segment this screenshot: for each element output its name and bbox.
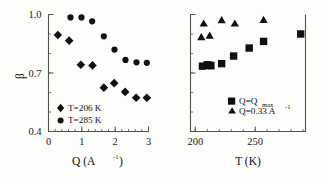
data-point-circle [122,57,128,63]
x-tick-label: 250 [247,136,263,147]
data-point-diamond [121,88,130,97]
y-tick-label: 0.7 [28,68,41,79]
right-panel-data-points [197,16,304,70]
data-point-square [297,30,304,37]
data-point-square [260,38,267,45]
left-panel-axes [49,15,149,132]
left-panel-legend: T=206 K T=285 K [57,103,102,125]
right-panel-tick-labels: 200250 [187,136,263,147]
data-point-square [245,44,252,51]
data-point-diamond [143,93,152,102]
x-tick-label: 1 [79,136,84,147]
legend-marker-diamond [57,104,64,112]
legend-marker-triangle [228,107,236,113]
data-point-square [218,60,225,67]
data-point-circle [78,14,84,20]
left-panel-xlabel-base: Q (A [72,155,96,168]
left-panel-xlabel: Q (A -1 ) [72,153,123,168]
left-panel-data-points [54,14,152,102]
data-point-triangle [200,19,208,26]
legend-label-q033-base: Q=0.33 A [239,106,276,116]
figure-container: 01230.40.71.0 β Q (A -1 ) T=206 K T=285 … [0,0,322,182]
x-tick-label: 3 [146,136,151,147]
data-point-diamond [77,61,86,70]
data-point-diamond [88,61,97,70]
data-point-triangle [197,33,205,40]
left-panel-tick-labels: 01230.40.71.0 [28,9,151,146]
x-tick-label: 0 [46,136,51,147]
data-point-triangle [218,16,226,23]
x-tick-label: 2 [113,136,118,147]
left-panel-ylabel: β [14,73,27,79]
data-point-triangle [206,31,214,38]
legend-label-t285: T=285 K [68,115,102,125]
data-point-diamond [65,36,74,45]
data-point-triangle [231,19,239,26]
left-panel-xlabel-superscript: -1 [113,153,119,160]
data-point-diamond [132,93,141,102]
data-point-square [207,62,214,69]
legend-label-t206: T=206 K [68,103,102,113]
data-point-diamond [54,31,63,40]
data-point-diamond [100,83,109,92]
legend-label-q033-superscript: -1 [285,103,291,110]
right-panel: 200250 T (K) Q=Q max Q=0.33 A -1 [187,15,305,169]
y-tick-label: 1.0 [28,9,41,20]
data-point-triangle [259,16,267,23]
right-panel-legend: Q=Q max Q=0.33 A -1 [228,96,291,116]
data-point-circle [67,14,73,20]
data-point-circle [89,18,95,24]
left-panel: 01230.40.71.0 β Q (A -1 ) T=206 K T=285 … [14,9,151,168]
data-point-circle [101,33,107,39]
x-tick-label: 200 [187,136,203,147]
data-point-circle [111,47,117,53]
legend-marker-circle [58,117,64,123]
data-point-circle [144,60,150,66]
data-point-diamond [110,79,119,88]
legend-label-qmax-base: Q=Q [239,96,258,106]
left-panel-ticks [49,15,149,132]
legend-marker-square [228,98,235,105]
data-point-circle [133,59,139,65]
left-panel-xlabel-tail: ) [119,155,123,168]
y-tick-label: 0.4 [28,126,42,137]
right-panel-xlabel: T (K) [235,155,261,168]
two-panel-scatter-figure: 01230.40.71.0 β Q (A -1 ) T=206 K T=285 … [0,0,322,182]
data-point-square [230,52,237,59]
